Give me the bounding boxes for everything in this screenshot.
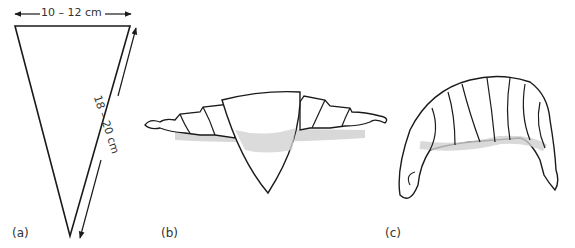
croissant-diagram <box>0 0 575 248</box>
panel-a-label: (a) <box>12 226 29 240</box>
panel-b-partially-rolled <box>145 92 387 193</box>
base-dimension-label: 10 – 12 cm <box>41 6 102 19</box>
panel-c-label: (c) <box>385 226 401 240</box>
panel-c-croissant <box>399 76 558 198</box>
panel-b-label: (b) <box>161 226 178 240</box>
